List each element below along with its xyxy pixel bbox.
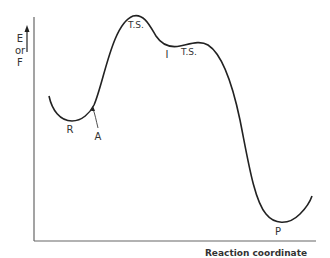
label-intermediate: I [166, 49, 169, 60]
label-reactant: R [67, 124, 74, 135]
reaction-diagram: E or F R A T.S. I T.S. P Reaction coordi… [0, 0, 330, 258]
y-label-or: or [15, 45, 26, 56]
x-axis-label: Reaction coordinate [205, 248, 307, 258]
label-product: P [275, 226, 281, 237]
y-label-f: F [17, 57, 23, 68]
y-label-e: E [17, 33, 23, 44]
label-ts1: T.S. [127, 20, 144, 30]
label-point-a: A [95, 131, 102, 142]
label-ts2: T.S. [180, 47, 197, 57]
y-arrow-head-icon [25, 25, 30, 32]
a-pointer-icon [93, 109, 98, 128]
